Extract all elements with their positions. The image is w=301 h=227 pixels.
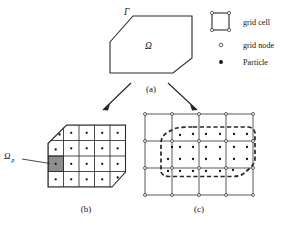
particle: [233, 158, 235, 160]
particle: [55, 178, 57, 180]
particle: [70, 132, 72, 134]
grid-node: [225, 140, 228, 143]
boundary-label-gamma: Γ: [123, 7, 130, 17]
subdomain-label-subscript: p: [11, 157, 15, 163]
grid-node: [198, 167, 201, 170]
particle: [167, 158, 169, 160]
arrow-a-to-c-head: [190, 104, 197, 111]
particle: [246, 158, 248, 160]
particle: [246, 133, 248, 135]
panel-a-group: Γ Ω (a): [110, 7, 192, 94]
particle: [117, 147, 119, 149]
particle: [192, 146, 194, 148]
grid-node: [225, 194, 228, 197]
caption-b: (b): [81, 204, 92, 214]
material-boundary-dashed: [161, 127, 255, 177]
caption-c: (c): [194, 204, 204, 214]
grid-node: [252, 140, 255, 143]
grid-node-icon: [210, 28, 213, 31]
particle: [205, 158, 207, 160]
grid-node: [171, 167, 174, 170]
particle: [179, 146, 181, 148]
particle: [70, 163, 72, 165]
grid-node: [198, 194, 201, 197]
arrow-a-to-b-line: [103, 83, 131, 110]
particle: [219, 158, 221, 160]
particle: [233, 133, 235, 135]
domain-label-omega: Ω: [145, 41, 152, 51]
arrow-a-to-c-line: [168, 83, 197, 110]
particle: [192, 133, 194, 135]
particle: [171, 146, 173, 148]
particle: [101, 132, 103, 134]
grid-node-icon: [227, 28, 230, 31]
particle: [246, 146, 248, 148]
legend-label-grid-node: grid node: [243, 41, 275, 50]
grid-node: [144, 113, 147, 116]
legend-label-particle: Particle: [243, 58, 268, 67]
grid-cell-icon: [212, 13, 229, 30]
particle: [101, 163, 103, 165]
panel-c-particles: [167, 133, 248, 172]
grid-node-icon: [210, 11, 213, 14]
particle: [179, 134, 181, 136]
particle: [70, 147, 72, 149]
particle: [101, 178, 103, 180]
grid-node: [144, 167, 147, 170]
grid-node: [144, 194, 147, 197]
grid-node: [171, 140, 174, 143]
particle: [86, 132, 88, 134]
particle: [86, 163, 88, 165]
legend-item-grid-node: grid node: [219, 41, 274, 50]
legend-item-grid-cell: grid cell: [210, 11, 270, 31]
figure-container: Γ Ω (a): [0, 0, 301, 227]
particle: [167, 170, 169, 172]
particle: [117, 132, 119, 134]
particle: [179, 170, 181, 172]
particle: [205, 133, 207, 135]
particle: [219, 170, 221, 172]
figure-svg: Γ Ω (a): [0, 0, 301, 227]
omega-p-leader-line: [22, 159, 50, 164]
caption-a: (a): [146, 84, 156, 94]
particle: [205, 170, 207, 172]
grid-node: [171, 194, 174, 197]
grid-node: [198, 113, 201, 116]
particle: [233, 146, 235, 148]
grid-node: [252, 167, 255, 170]
particle: [232, 169, 234, 171]
subdomain-label-omega-p: Ω: [4, 151, 11, 161]
panel-b-group: Ω p (b): [4, 125, 126, 214]
grid-node: [225, 113, 228, 116]
grid-node: [225, 167, 228, 170]
grid-node: [252, 113, 255, 116]
grid-node: [171, 113, 174, 116]
particle: [179, 158, 181, 160]
particle: [219, 146, 221, 148]
particle: [70, 178, 72, 180]
particle: [117, 176, 119, 178]
particle: [205, 146, 207, 148]
particle: [58, 133, 60, 135]
particle: [192, 158, 194, 160]
particle: [86, 178, 88, 180]
particle: [192, 170, 194, 172]
particle: [219, 133, 221, 135]
grid-node-icon: [227, 11, 230, 14]
particle: [55, 148, 57, 150]
particle-icon: [219, 60, 223, 64]
legend-item-particle: Particle: [219, 58, 268, 67]
grid-node: [198, 140, 201, 143]
panel-c-group: (c): [144, 113, 256, 215]
legend-group: grid cell grid node Particle: [210, 11, 274, 67]
particle: [101, 147, 103, 149]
grid-node: [252, 194, 255, 197]
arrow-a-to-b-head: [103, 104, 110, 111]
grid-node-icon: [219, 43, 223, 47]
particle: [55, 163, 57, 165]
grid-node: [144, 140, 147, 143]
legend-label-grid-cell: grid cell: [243, 18, 271, 27]
particle: [117, 163, 119, 165]
particle: [86, 147, 88, 149]
